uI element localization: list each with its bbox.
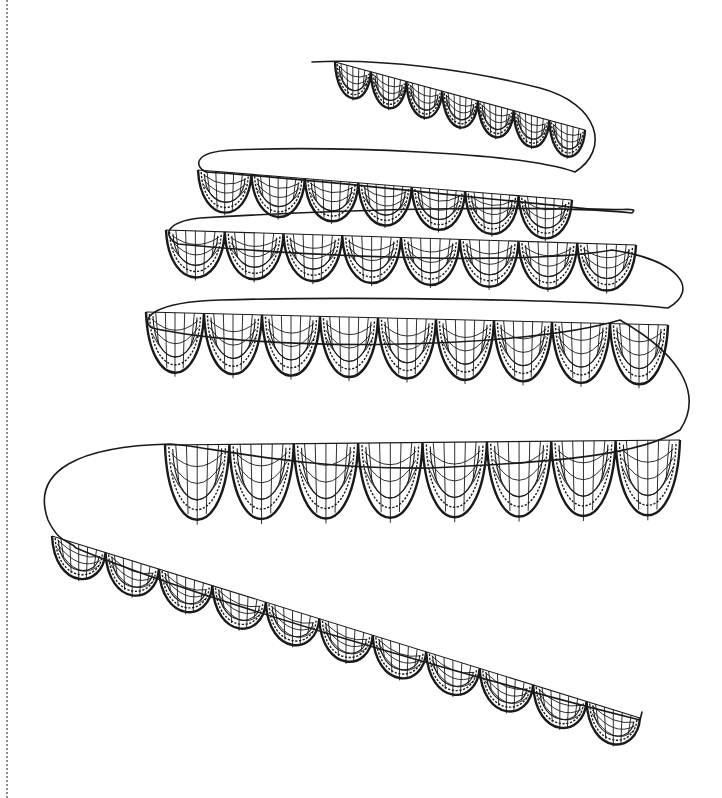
spiral-lace-drawing bbox=[0, 0, 722, 798]
lace-top-edge bbox=[52, 536, 640, 718]
lace-tier-3 bbox=[166, 230, 636, 294]
lace-fringe-group bbox=[52, 62, 680, 747]
lace-mesh-pattern bbox=[57, 539, 634, 747]
lace-tier-1 bbox=[335, 62, 585, 159]
lace-mesh-pattern bbox=[152, 312, 662, 388]
lace-tier-6 bbox=[52, 536, 640, 747]
lace-tier-5 bbox=[165, 440, 680, 525]
lace-tier-2 bbox=[198, 170, 572, 241]
spiral-ribbon-line bbox=[44, 61, 689, 720]
lace-tier-4 bbox=[146, 312, 668, 388]
